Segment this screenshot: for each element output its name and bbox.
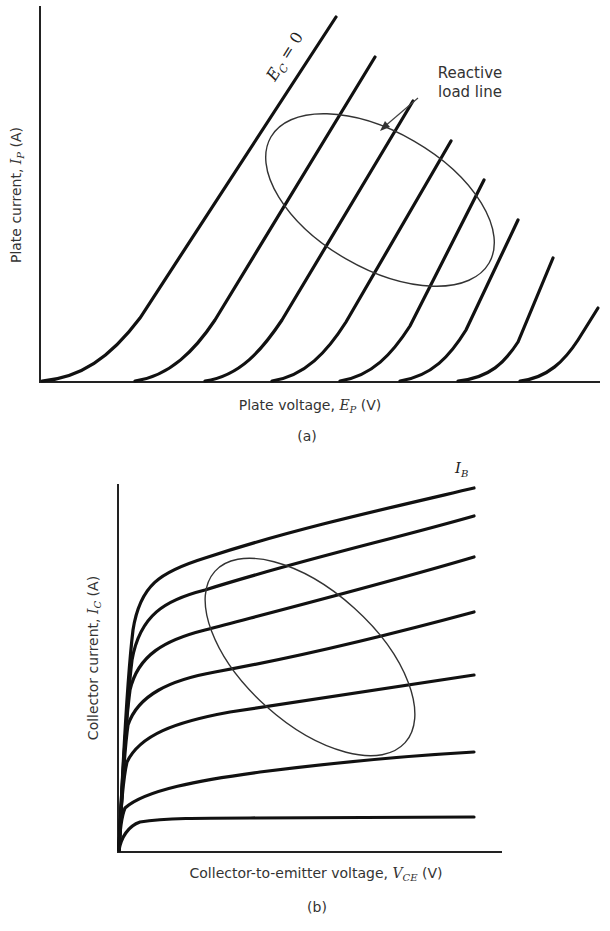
curve-ib-7 — [119, 488, 474, 850]
panel-a-caption: (a) — [297, 428, 317, 444]
curve-label-ec0: EC = 0 — [262, 28, 310, 86]
panel-b-xlabel: Collector-to-emitter voltage, VCE (V) — [190, 865, 443, 883]
reactive-load-line-ellipse — [237, 78, 523, 322]
curve-6 — [400, 220, 518, 381]
ylabel-prefix: Plate current, — [8, 164, 24, 263]
curve-ib-3 — [119, 675, 474, 850]
panel-b-curves — [119, 488, 474, 850]
ylabel-unit-b: (A) — [85, 576, 101, 601]
svg-text:Plate current, IP (A): Plate current, IP (A) — [8, 127, 26, 263]
curve-4 — [272, 141, 451, 381]
panel-a-axes — [40, 6, 600, 382]
curve-label-eq: = 0 — [273, 28, 307, 67]
annotation-line1: Reactive — [438, 64, 503, 82]
curve-ec-0 — [42, 17, 336, 381]
panel-a-xlabel: Plate voltage, EP (V) — [239, 397, 382, 415]
figure: Reactive load line EC = 0 Plate current,… — [0, 0, 610, 931]
curve-ib-1 — [119, 817, 474, 850]
curve-ib-2 — [119, 752, 474, 850]
ylabel-prefix-b: Collector current, — [85, 614, 101, 740]
ylabel-unit: (A) — [8, 127, 24, 152]
xlabel-var: E — [338, 397, 349, 413]
panel-b-ylabel: Collector current, IC (A) — [85, 576, 103, 740]
xlabel-prefix: Plate voltage, — [239, 397, 340, 413]
panel-a: Reactive load line EC = 0 Plate current,… — [8, 6, 600, 444]
annotation-line2: load line — [438, 83, 502, 101]
svg-text:EC = 0: EC = 0 — [262, 28, 310, 86]
xlabel-unit-b: (V) — [418, 865, 443, 881]
panel-a-ylabel: Plate current, IP (A) — [8, 127, 26, 263]
panel-b: IB Collector current, IC (A) Collector-t… — [85, 459, 502, 915]
panel-a-curves — [42, 17, 598, 381]
curve-label-ib-sub: B — [460, 468, 468, 479]
curve-3 — [205, 101, 413, 381]
reactive-load-line-ellipse-b — [171, 522, 450, 791]
curve-8 — [520, 308, 598, 381]
xlabel-prefix-b: Collector-to-emitter voltage, — [190, 865, 393, 881]
curve-ib-4 — [119, 612, 474, 850]
panel-b-axes — [118, 484, 502, 852]
svg-text:Collector current, IC (A): Collector current, IC (A) — [85, 576, 103, 740]
curve-label-ib: IB — [454, 459, 468, 479]
xlabel-sub-b: CE — [403, 872, 419, 883]
xlabel-unit: (V) — [356, 397, 381, 413]
panel-b-caption: (b) — [307, 899, 327, 915]
